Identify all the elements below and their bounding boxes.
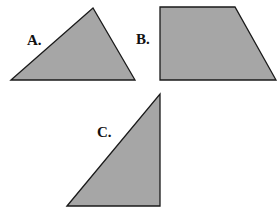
label-c: C. <box>97 124 112 140</box>
label-a: A. <box>27 32 42 48</box>
shape-b: B. <box>136 7 276 80</box>
right-triangle-c <box>67 94 160 206</box>
shape-a: A. <box>11 8 135 80</box>
shape-c: C. <box>67 94 160 206</box>
label-b: B. <box>136 31 150 47</box>
shapes-figure: A. B. C. <box>0 0 280 210</box>
trapezoid-b <box>160 7 276 80</box>
